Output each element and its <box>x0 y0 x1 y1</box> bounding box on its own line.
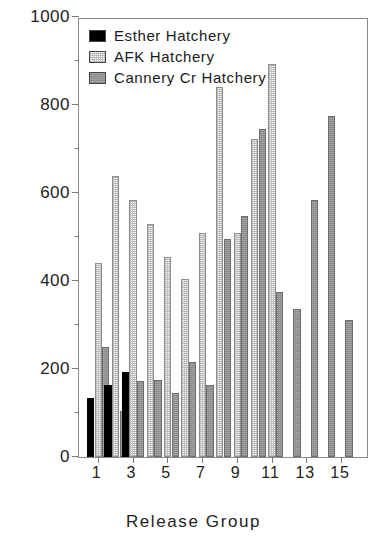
bar-group-4-cannery-cr-hatchery <box>154 380 161 457</box>
y-tick-400 <box>72 280 79 281</box>
bar-group-11-afk-hatchery <box>268 64 275 457</box>
bar-group-6-afk-hatchery <box>181 279 188 457</box>
legend: Esther HatcheryAFK HatcheryCannery Cr Ha… <box>89 25 266 88</box>
x-tick-1 <box>98 457 99 463</box>
legend-swatch-icon <box>89 30 106 42</box>
y-tick-0 <box>72 456 79 457</box>
bar-group-14-cannery-cr-hatchery <box>328 116 335 457</box>
y-tick-label-800: 800 <box>2 95 70 115</box>
bar-group-7-cannery-cr-hatchery <box>206 385 213 457</box>
bar-group-1-esther-hatchery <box>87 398 94 457</box>
x-tick-9 <box>237 457 238 463</box>
y-tick-200 <box>72 368 79 369</box>
bar-group-5-afk-hatchery <box>164 257 171 457</box>
plot-area: Esther HatcheryAFK HatcheryCannery Cr Ha… <box>78 18 368 458</box>
bar-group-13-cannery-cr-hatchery <box>311 200 318 457</box>
bar-group-5-cannery-cr-hatchery <box>172 393 179 457</box>
legend-swatch-icon <box>89 51 106 63</box>
bar-chart-figure: Total/Marked Ratio 02004006008001000 Est… <box>0 0 387 554</box>
legend-item-esther-hatchery: Esther Hatchery <box>89 25 266 46</box>
bar-group-11-cannery-cr-hatchery <box>276 292 283 457</box>
legend-item-cannery-cr-hatchery: Cannery Cr Hatchery <box>89 67 266 88</box>
y-tick-label-1000: 1000 <box>2 7 70 27</box>
x-tick-15 <box>341 457 342 463</box>
bar-group-8-cannery-cr-hatchery <box>224 239 231 457</box>
legend-item-afk-hatchery: AFK Hatchery <box>89 46 266 67</box>
x-tick-label-15: 15 <box>320 464 360 482</box>
bar-group-8-afk-hatchery <box>216 87 223 457</box>
bar-group-2-esther-hatchery <box>104 385 111 457</box>
bar-group-4-afk-hatchery <box>147 224 154 457</box>
bar-group-6-cannery-cr-hatchery <box>189 362 196 457</box>
bar-group-12-cannery-cr-hatchery <box>293 309 300 457</box>
legend-label: AFK Hatchery <box>114 48 215 65</box>
y-tick-label-400: 400 <box>2 271 70 291</box>
legend-label: Cannery Cr Hatchery <box>114 69 266 86</box>
bar-group-10-afk-hatchery <box>251 139 258 457</box>
bar-group-9-afk-hatchery <box>234 233 241 457</box>
x-axis-title: Release Group <box>0 512 387 532</box>
bar-group-3-afk-hatchery <box>129 200 136 457</box>
bar-group-7-afk-hatchery <box>199 233 206 457</box>
x-tick-5 <box>167 457 168 463</box>
y-tick-600 <box>72 192 79 193</box>
y-tick-label-200: 200 <box>2 359 70 379</box>
x-tick-11 <box>272 457 273 463</box>
bar-group-3-cannery-cr-hatchery <box>137 381 144 457</box>
legend-label: Esther Hatchery <box>114 27 231 44</box>
x-tick-13 <box>306 457 307 463</box>
bar-group-9-cannery-cr-hatchery <box>241 216 248 457</box>
bar-group-15-cannery-cr-hatchery <box>345 320 352 457</box>
y-tick-800 <box>72 104 79 105</box>
y-tick-1000 <box>72 16 79 17</box>
x-tick-3 <box>133 457 134 463</box>
x-tick-7 <box>202 457 203 463</box>
bar-group-1-afk-hatchery <box>95 263 102 457</box>
y-tick-label-600: 600 <box>2 183 70 203</box>
bar-group-10-cannery-cr-hatchery <box>259 129 266 457</box>
legend-swatch-icon <box>89 72 106 84</box>
bar-group-3-esther-hatchery <box>122 372 129 457</box>
y-tick-label-0: 0 <box>2 447 70 467</box>
bar-group-2-afk-hatchery <box>112 176 119 457</box>
